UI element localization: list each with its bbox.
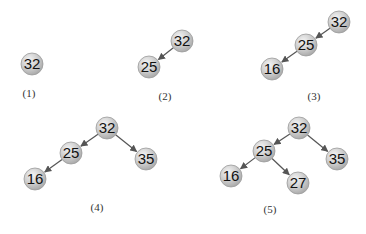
node-value: 25 [63, 144, 80, 161]
edge-arrow [282, 51, 297, 62]
node-value: 35 [138, 150, 155, 167]
node-value: 32 [99, 119, 116, 136]
edge-arrow [116, 135, 137, 152]
tree-node: 32 [96, 117, 118, 139]
tree-node: 35 [326, 148, 348, 170]
tree-node: 16 [261, 58, 283, 80]
tree-node: 25 [253, 140, 275, 162]
edge-arrow [272, 159, 289, 175]
nodes-layer: 323225322516322535163225351627 [21, 11, 350, 194]
edge-arrow [308, 135, 328, 151]
node-value: 32 [291, 119, 308, 136]
tree-node: 32 [288, 117, 310, 139]
tree-node: 32 [328, 11, 350, 33]
edge-arrow [316, 28, 330, 38]
node-value: 16 [223, 167, 240, 184]
diagram-svg: 323225322516322535163225351627 (1)(2)(3)… [0, 0, 366, 234]
edge-arrow [81, 134, 98, 146]
edge-arrow [241, 158, 256, 169]
node-value: 25 [298, 36, 315, 53]
step-label: (1) [23, 87, 36, 100]
tree-node: 25 [138, 56, 160, 78]
node-value: 32 [331, 13, 348, 30]
tree-node: 35 [135, 148, 157, 170]
tree-node: 27 [287, 172, 309, 194]
tree-node: 16 [220, 165, 242, 187]
tree-node: 25 [295, 34, 317, 56]
step-label: (4) [91, 201, 104, 214]
edge-arrow [158, 48, 173, 60]
step-label: (3) [308, 90, 321, 103]
tree-node: 16 [24, 168, 46, 190]
edge-arrow [274, 134, 290, 144]
node-value: 32 [174, 32, 191, 49]
edge-arrow [45, 159, 62, 172]
node-value: 27 [290, 174, 307, 191]
bst-insertion-diagram: 323225322516322535163225351627 (1)(2)(3)… [0, 0, 366, 234]
tree-node: 25 [60, 142, 82, 164]
node-value: 16 [264, 60, 281, 77]
tree-node: 32 [21, 53, 43, 75]
node-value: 32 [24, 55, 41, 72]
node-value: 35 [329, 150, 346, 167]
node-value: 25 [256, 142, 273, 159]
tree-node: 32 [171, 30, 193, 52]
step-label: (2) [159, 90, 172, 103]
step-label: (5) [264, 203, 277, 216]
node-value: 25 [141, 58, 158, 75]
node-value: 16 [27, 170, 44, 187]
